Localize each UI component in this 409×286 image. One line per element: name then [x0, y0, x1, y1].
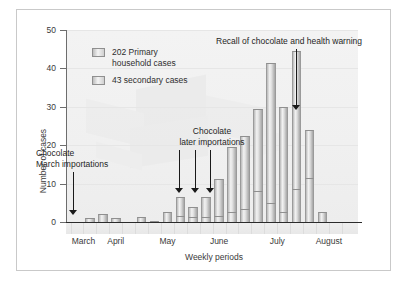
- annotation-later-line1: Chocolate: [193, 126, 231, 136]
- x-band-tick: [187, 223, 188, 234]
- bar-segment-primary: [318, 212, 328, 222]
- table-row: [240, 136, 250, 222]
- gridline-y-30: [66, 107, 358, 108]
- bar-segment-secondary: [266, 63, 276, 203]
- bar-segment-primary: [253, 191, 263, 222]
- y-tick-10: [60, 184, 66, 185]
- table-row: [279, 107, 289, 222]
- y-tick-50: [60, 30, 66, 31]
- bar-segment-primary: [305, 178, 315, 222]
- legend: 202 Primary household cases 43 secondary…: [92, 47, 188, 93]
- x-tick-label-april: April: [93, 236, 139, 246]
- bar-segment-secondary: [279, 107, 289, 213]
- x-band-tick: [200, 223, 201, 234]
- x-band-tick: [342, 223, 343, 234]
- bar-segment-secondary: [305, 130, 315, 178]
- x-band-tick: [316, 223, 317, 234]
- x-band-tick: [329, 223, 330, 234]
- x-band-tick: [290, 223, 291, 234]
- annotation-later-arrow-line-2: [195, 150, 196, 190]
- table-row: [305, 130, 315, 222]
- bar-segment-secondary: [214, 179, 224, 217]
- bar-segment-primary: [227, 212, 237, 222]
- table-row: [163, 212, 173, 222]
- x-band-tick: [251, 223, 252, 234]
- bar-segment-primary: [240, 209, 250, 222]
- annotation-recall-line1: Recall of chocolate and health warning: [216, 36, 362, 46]
- bar-segment-primary: [279, 212, 289, 222]
- y-tick-label-40: 40: [26, 63, 56, 73]
- x-axis-tick-band: [66, 223, 358, 234]
- table-row: [318, 212, 328, 222]
- annotation-march-arrow-line: [73, 172, 74, 212]
- x-band-tick: [264, 223, 265, 234]
- x-tick-label-june: June: [196, 236, 242, 246]
- annotation-later-line2: later importations: [179, 137, 244, 147]
- x-band-tick: [71, 223, 72, 234]
- legend-item-secondary: 43 secondary cases: [92, 75, 188, 86]
- annotation-march-importations: Chocolate March importations: [36, 148, 141, 169]
- legend-label-secondary: 43 secondary cases: [112, 75, 188, 86]
- y-tick-40: [60, 68, 66, 69]
- annotation-march-line2: March importations: [36, 159, 108, 169]
- annotation-later-arrow-head-1: [175, 188, 183, 193]
- table-row: [266, 63, 276, 222]
- x-band-tick: [303, 223, 304, 234]
- y-tick-30: [60, 107, 66, 108]
- bar-segment-primary: [163, 212, 173, 222]
- annotation-later-arrow-line-1: [179, 150, 180, 190]
- x-band-tick: [277, 223, 278, 234]
- table-row: [176, 197, 186, 222]
- chart-page: Number of cases 01020304050 MarchAprilMa…: [0, 0, 409, 286]
- bar-segment-primary: [266, 203, 276, 222]
- x-band-tick: [122, 223, 123, 234]
- annotation-march-arrow-head: [69, 210, 77, 215]
- x-band-tick: [148, 223, 149, 234]
- annotation-later-arrow-head-2: [191, 188, 199, 193]
- x-tick-label-july: July: [254, 236, 300, 246]
- legend-label-primary: 202 Primary household cases: [112, 47, 176, 68]
- gridline-y-50: [66, 30, 358, 31]
- table-row: [98, 214, 108, 222]
- annotation-recall: Recall of chocolate and health warning: [216, 36, 386, 47]
- legend-item-primary: 202 Primary household cases: [92, 47, 188, 68]
- annotation-later-arrow-line-3: [210, 150, 211, 190]
- x-tick-label-august: August: [306, 236, 352, 246]
- x-band-tick: [174, 223, 175, 234]
- table-row: [188, 207, 198, 222]
- annotation-recall-arrow-head: [292, 105, 300, 110]
- table-row: [201, 197, 211, 222]
- bar-segment-primary: [98, 214, 108, 222]
- x-tick-label-may: May: [144, 236, 190, 246]
- annotation-later-arrow-head-3: [206, 188, 214, 193]
- bar-segment-secondary: [227, 147, 237, 212]
- y-tick-label-10: 10: [26, 179, 56, 189]
- x-axis-title: Weekly periods: [66, 252, 362, 262]
- legend-swatch-primary: [92, 48, 105, 57]
- annotation-recall-arrow-line: [296, 49, 297, 107]
- annotation-later-importations: Chocolate later importations: [160, 126, 264, 147]
- legend-label-primary-line2: household cases: [112, 58, 176, 68]
- bar-segment-secondary: [201, 197, 211, 217]
- bar-segment-secondary: [188, 207, 198, 218]
- legend-swatch-secondary: [92, 76, 105, 85]
- y-tick-0: [60, 222, 66, 223]
- y-axis-line: [66, 30, 67, 223]
- y-tick-label-50: 50: [26, 25, 56, 35]
- x-band-tick: [96, 223, 97, 234]
- table-row: [214, 179, 224, 222]
- annotation-march-line1: Chocolate: [36, 148, 74, 158]
- bar-segment-secondary: [253, 109, 263, 192]
- x-band-tick: [83, 223, 84, 234]
- y-tick-label-0: 0: [26, 217, 56, 227]
- y-tick-label-30: 30: [26, 102, 56, 112]
- table-row: [227, 147, 237, 222]
- x-band-tick: [238, 223, 239, 234]
- y-tick-20: [60, 145, 66, 146]
- x-band-tick: [135, 223, 136, 234]
- x-band-tick: [226, 223, 227, 234]
- bar-segment-primary: [292, 189, 302, 222]
- bar-segment-secondary: [176, 197, 186, 216]
- x-band-tick: [161, 223, 162, 234]
- x-band-tick: [109, 223, 110, 234]
